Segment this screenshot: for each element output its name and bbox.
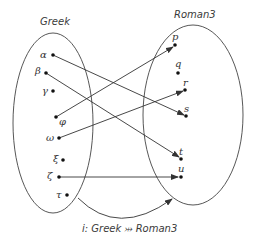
dot-r xyxy=(183,88,187,92)
arrow-omega-to-r xyxy=(59,91,183,138)
dot-s xyxy=(184,114,188,118)
function-caption: i: Greek ⤔ Roman3 xyxy=(82,223,177,235)
label-tau: τ xyxy=(56,190,62,200)
dot-gamma xyxy=(51,89,55,93)
roman3-set-boundary xyxy=(143,25,243,205)
dot-t xyxy=(179,157,183,161)
label-q: q xyxy=(175,59,181,69)
greek-set-boundary xyxy=(13,33,93,213)
arrow-beta-to-t xyxy=(46,73,179,157)
mapping-diagram xyxy=(0,0,253,240)
label-s: s xyxy=(184,104,189,114)
label-alpha: α xyxy=(40,50,47,60)
label-u: u xyxy=(178,164,184,174)
label-zeta: ζ xyxy=(47,171,52,181)
greek-set-title: Greek xyxy=(40,16,70,27)
dot-q xyxy=(176,71,180,75)
label-gamma: γ xyxy=(42,86,48,96)
dot-omega xyxy=(57,136,61,140)
dot-u xyxy=(179,175,183,179)
label-beta: β xyxy=(35,66,41,76)
label-phi: φ xyxy=(59,117,66,127)
label-r: r xyxy=(183,78,188,88)
dot-zeta xyxy=(57,175,61,179)
dot-p xyxy=(173,43,177,47)
arrow-phi-to-p xyxy=(56,47,173,117)
label-omega: ω xyxy=(46,133,54,143)
label-p: p xyxy=(172,32,178,42)
label-t: t xyxy=(179,147,183,157)
function-curve-arrow xyxy=(78,198,172,218)
arrow-alpha-to-s xyxy=(53,55,184,115)
label-xi: ξ xyxy=(53,154,59,164)
dot-xi xyxy=(61,158,65,162)
dot-beta xyxy=(44,71,48,75)
dot-alpha xyxy=(51,53,55,57)
dot-phi xyxy=(54,115,58,119)
roman3-set-title: Roman3 xyxy=(174,9,216,20)
dot-tau xyxy=(65,193,69,197)
